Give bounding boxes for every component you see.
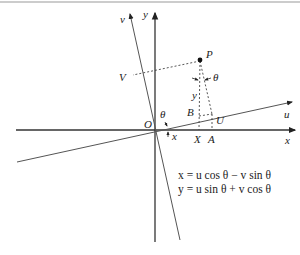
- dotted-PX: [199, 61, 200, 130]
- label-v-axis: v: [120, 13, 125, 25]
- equation-y: y = u sin θ + v cos θ: [178, 183, 271, 196]
- label-U: U: [216, 114, 225, 126]
- label-x-axis: x: [284, 134, 290, 146]
- label-y-axis: y: [142, 8, 148, 20]
- equation-x: x = u cos θ − v sin θ: [178, 169, 271, 181]
- theta-arrow-right: [205, 78, 211, 80]
- label-seg-y: y: [191, 89, 197, 101]
- label-P: P: [205, 48, 213, 60]
- label-A: A: [207, 133, 215, 145]
- label-V: V: [119, 71, 127, 83]
- point-P-dot: [198, 58, 203, 63]
- label-theta-origin: θ: [160, 108, 166, 120]
- theta-arrow-left: [192, 78, 198, 80]
- label-u-axis: u: [284, 108, 290, 120]
- rotation-diagram: v y u x O P V θ y B U θ x X A x = u cos …: [0, 0, 300, 255]
- label-theta-P: θ: [213, 71, 219, 83]
- dotted-BU: [199, 114, 212, 116]
- label-B: B: [187, 106, 194, 118]
- label-origin: O: [144, 118, 152, 130]
- dotted-PU: [200, 61, 212, 114]
- label-X: X: [193, 133, 202, 145]
- label-seg-x: x: [171, 130, 177, 142]
- theta-origin-arrow: [165, 122, 167, 126]
